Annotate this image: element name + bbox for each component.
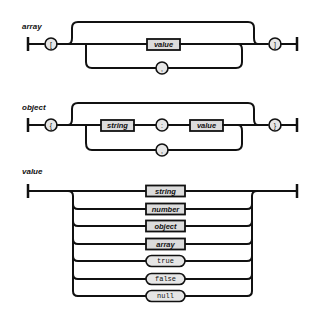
colon-terminal: :: [156, 119, 168, 131]
null-terminal: null: [146, 291, 185, 302]
open-brace-terminal: {: [45, 119, 57, 131]
value-diagram: value string number object: [22, 167, 297, 302]
repeat-path-left: [86, 44, 156, 68]
svg-text:value: value: [197, 121, 216, 130]
svg-text:true: true: [157, 257, 174, 265]
array-diagram-label: array: [22, 22, 42, 31]
object-nonterminal: object: [146, 221, 185, 232]
svg-text:number: number: [152, 205, 181, 214]
array-diagram: array [ value , ]: [22, 22, 297, 74]
svg-text:[: [: [50, 41, 52, 49]
false-terminal: false: [146, 274, 185, 285]
value-diagram-label: value: [22, 167, 43, 176]
number-nonterminal: number: [146, 204, 185, 215]
string-nonterminal: string: [146, 186, 185, 197]
svg-text:string: string: [155, 187, 176, 196]
svg-text:string: string: [107, 121, 128, 130]
value-nonterminal: value: [147, 39, 180, 50]
comma-terminal: ,: [156, 144, 168, 156]
json-syntax-railroad-diagrams: array [ value , ] o: [0, 0, 322, 315]
svg-text:false: false: [155, 275, 176, 283]
close-bracket-terminal: ]: [269, 38, 281, 50]
string-key-nonterminal: string: [101, 120, 134, 131]
open-bracket-terminal: [: [45, 38, 57, 50]
comma-terminal: ,: [156, 62, 168, 74]
svg-text:object: object: [154, 222, 177, 231]
svg-text::: :: [161, 122, 163, 129]
true-terminal: true: [146, 256, 185, 267]
object-diagram-label: object: [22, 103, 46, 112]
svg-text:,: ,: [161, 65, 163, 72]
svg-text:array: array: [156, 240, 175, 249]
svg-text:null: null: [157, 292, 174, 300]
value-nonterminal: value: [190, 120, 223, 131]
object-diagram: object { string : value ,: [22, 103, 297, 156]
svg-text:]: ]: [274, 41, 276, 49]
array-nonterminal: array: [146, 239, 185, 250]
svg-text:value: value: [154, 40, 173, 49]
svg-text:,: ,: [161, 147, 163, 154]
close-brace-terminal: }: [269, 119, 281, 131]
